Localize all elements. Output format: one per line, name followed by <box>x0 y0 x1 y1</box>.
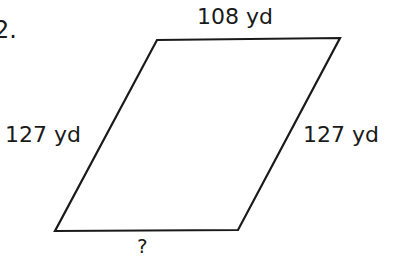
side-label-bottom: ? <box>137 236 148 256</box>
side-label-left: 127 yd <box>5 124 81 146</box>
side-label-right: 127 yd <box>303 124 379 146</box>
parallelogram-shape <box>55 38 340 231</box>
side-label-top: 108 yd <box>197 6 273 28</box>
